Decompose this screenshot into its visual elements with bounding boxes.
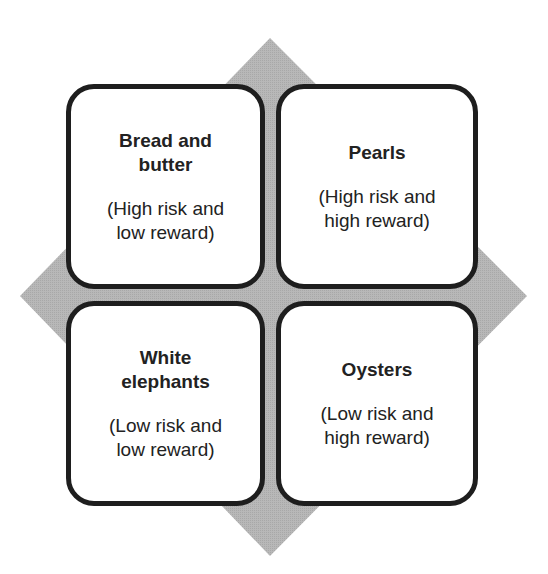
title-line: Oysters xyxy=(342,358,413,382)
desc-line: low reward) xyxy=(109,438,222,462)
desc-line: (Low risk and xyxy=(109,414,222,438)
quadrant-description: (High risk and high reward) xyxy=(318,185,435,233)
quadrant-pearls: Pearls (High risk and high reward) xyxy=(276,84,478,289)
title-line: White xyxy=(121,346,210,370)
quadrant-title: Pearls xyxy=(348,141,405,165)
quadrant-title: White elephants xyxy=(121,346,210,394)
quadrant-white-elephants: White elephants (Low risk and low reward… xyxy=(66,301,265,506)
desc-line: (Low risk and xyxy=(321,402,434,426)
desc-line: high reward) xyxy=(318,209,435,233)
quadrant-description: (High risk and low reward) xyxy=(107,197,224,245)
desc-line: low reward) xyxy=(107,221,224,245)
desc-line: (High risk and xyxy=(107,197,224,221)
desc-line: high reward) xyxy=(321,426,434,450)
quadrant-oysters: Oysters (Low risk and high reward) xyxy=(276,301,478,506)
quadrant-title: Bread and butter xyxy=(119,129,212,177)
title-line: elephants xyxy=(121,370,210,394)
quadrant-description: (Low risk and high reward) xyxy=(321,402,434,450)
title-line: butter xyxy=(119,153,212,177)
desc-line: (High risk and xyxy=(318,185,435,209)
title-line: Pearls xyxy=(348,141,405,165)
quadrant-description: (Low risk and low reward) xyxy=(109,414,222,462)
quadrant-title: Oysters xyxy=(342,358,413,382)
title-line: Bread and xyxy=(119,129,212,153)
quadrant-bread-and-butter: Bread and butter (High risk and low rewa… xyxy=(66,84,265,289)
